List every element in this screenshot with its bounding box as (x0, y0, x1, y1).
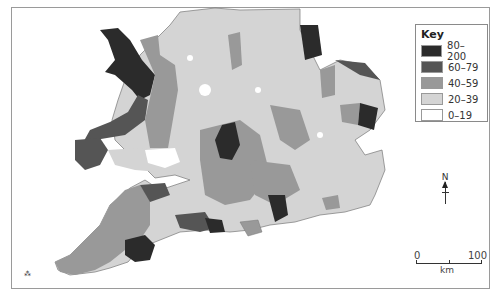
scilly-islands: ⁂ (24, 270, 31, 278)
key-label: 80–200 (447, 40, 482, 62)
key-swatch-0-19 (421, 109, 443, 121)
white-area (199, 84, 211, 96)
suffolk-mid (340, 103, 360, 125)
norfolk-mid (320, 65, 335, 98)
map-key: Key 80–200 60–79 40–59 20–39 0–19 (415, 24, 488, 122)
white-area (187, 55, 193, 61)
white-area (317, 132, 323, 138)
key-label: 60–79 (448, 62, 478, 73)
scale-start: 0 (414, 250, 420, 261)
key-swatch-20-39 (421, 93, 443, 105)
scale-tick (416, 260, 417, 264)
key-item: 20–39 (421, 91, 482, 107)
white-area (255, 87, 261, 93)
north-arrow-icon (445, 182, 446, 204)
scale-unit: km (440, 265, 454, 275)
key-item: 40–59 (421, 75, 482, 91)
key-label: 20–39 (448, 94, 478, 105)
key-label: 0–19 (448, 110, 472, 121)
isle-of-wight (240, 220, 262, 236)
key-swatch-40-59 (421, 77, 443, 89)
key-item: 60–79 (421, 59, 482, 75)
key-swatch-80-200 (421, 45, 442, 57)
dorset-darkest (205, 218, 225, 233)
scale-end: 100 (468, 250, 487, 261)
key-item: 0–19 (421, 107, 482, 123)
key-item: 80–200 (421, 43, 482, 59)
key-label: 40–59 (448, 78, 478, 89)
north-arrow: N (437, 172, 453, 204)
key-swatch-60-79 (421, 61, 443, 73)
wales-south-west (75, 138, 108, 170)
scale-tick (449, 260, 450, 264)
scale-tick (481, 260, 482, 264)
